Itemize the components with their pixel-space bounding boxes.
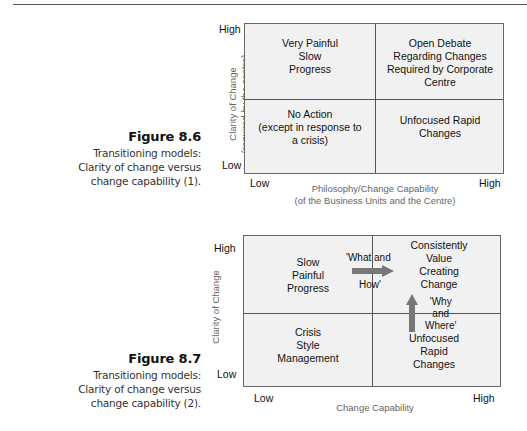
quadrant-line: Changes xyxy=(375,127,505,140)
caption-line: Transitioning models: xyxy=(78,146,201,160)
quadrant-line: Slow xyxy=(245,50,375,63)
quadrant-line: Style xyxy=(244,339,372,352)
caption-line: Clarity of change versus xyxy=(78,160,201,174)
quadrant-line: Open Debate xyxy=(375,37,505,50)
figure-number: Figure 8.6 xyxy=(78,128,201,146)
quadrant-line: Unfocused Rapid xyxy=(375,114,505,127)
y-axis-label: Clarity of Change xyxy=(210,257,224,357)
quadrant-bottom-right: Unfocused Rapid Changes xyxy=(375,114,505,140)
quadrant-bottom-left: No Action (except in response to a crisi… xyxy=(245,108,375,147)
arrow-label-why-and-where: 'Why and Where' xyxy=(425,296,456,332)
quadrant-line: Consistently xyxy=(389,239,489,252)
horizontal-divider xyxy=(245,99,503,100)
y-tick-low: Low xyxy=(217,368,236,380)
quadrant-top-right: Open Debate Regarding Changes Required b… xyxy=(375,37,505,89)
quadrant-line: Progress xyxy=(245,63,375,76)
x-tick-low: Low xyxy=(250,177,269,189)
quadrant-line: Unfocused xyxy=(384,332,484,345)
x-axis-label-line: (of the Business Units and the Centre) xyxy=(280,195,470,207)
quadrant-line: a crisis) xyxy=(245,134,375,147)
caption-line: change capability (1). xyxy=(78,174,201,188)
arrow-label-how: How' xyxy=(359,279,381,291)
quadrant-grid: Very Painful Slow Progress Open Debate R… xyxy=(244,23,504,174)
y-tick-low: Low xyxy=(222,159,241,171)
arrow-label-line: and xyxy=(425,308,456,320)
x-axis-label: Change Capability xyxy=(310,402,440,414)
quadrant-top-right: Consistently Value Creating Change xyxy=(389,239,489,291)
quadrant-line: Changes xyxy=(384,358,484,371)
quadrant-line: Creating xyxy=(389,265,489,278)
y-tick-high: High xyxy=(219,23,241,35)
quadrant-line: Regarding Changes xyxy=(375,50,505,63)
caption-line: Clarity of change versus xyxy=(78,382,201,396)
caption-line: change capability (2). xyxy=(78,396,201,410)
up-arrow-icon xyxy=(406,294,418,332)
quadrant-bottom-left: Crisis Style Management xyxy=(244,326,372,365)
quadrant-line: Very Painful xyxy=(245,37,375,50)
quadrant-line: Crisis xyxy=(244,326,372,339)
quadrant-line: No Action xyxy=(245,108,375,121)
arrow-label-what-and: 'What and xyxy=(346,252,391,264)
quadrant-grid: Slow Painful Progress Consistently Value… xyxy=(243,235,501,387)
y-axis-label-line: Clarity of Change xyxy=(227,36,239,172)
figure-8-6-caption: Figure 8.6 Transitioning models: Clarity… xyxy=(78,128,201,188)
quadrant-line: Required by Corporate xyxy=(375,63,505,76)
x-tick-high: High xyxy=(479,177,501,189)
x-axis-label-line: Change Capability xyxy=(310,402,440,414)
quadrant-line: Centre xyxy=(375,76,505,89)
caption-line: Transitioning models: xyxy=(78,368,201,382)
y-axis-label-line: Clarity of Change xyxy=(210,257,222,357)
quadrant-line: Rapid xyxy=(384,345,484,358)
quadrant-top-left: Very Painful Slow Progress xyxy=(245,37,375,76)
quadrant-line: Change xyxy=(389,278,489,291)
figure-number: Figure 8.7 xyxy=(78,350,201,368)
right-arrow-icon xyxy=(352,265,394,277)
figure-8-7-caption: Figure 8.7 Transitioning models: Clarity… xyxy=(78,350,201,410)
x-tick-high: High xyxy=(473,392,495,404)
x-axis-label-line: Philosophy/Change Capability xyxy=(280,183,470,195)
x-axis-label: Philosophy/Change Capability (of the Bus… xyxy=(280,183,470,207)
quadrant-line: Progress xyxy=(244,282,372,295)
page-header-rule xyxy=(13,4,527,5)
arrow-label-line: Where' xyxy=(425,320,456,332)
quadrant-line: Value xyxy=(389,252,489,265)
arrow-label-line: 'Why xyxy=(425,296,456,308)
quadrant-line: (except in response to xyxy=(245,121,375,134)
horizontal-divider xyxy=(244,313,500,314)
quadrant-bottom-right: Unfocused Rapid Changes xyxy=(384,332,484,371)
x-tick-low: Low xyxy=(254,392,273,404)
y-tick-high: High xyxy=(214,242,236,254)
quadrant-line: Management xyxy=(244,352,372,365)
